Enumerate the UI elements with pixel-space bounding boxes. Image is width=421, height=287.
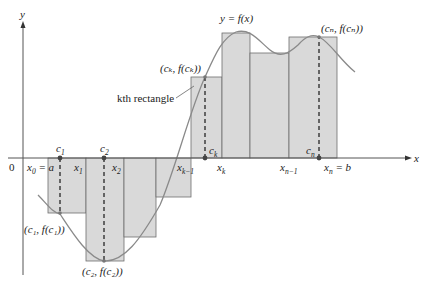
point-label-ck: (cₖ, f(cₖ)) [160,62,201,75]
rectangle-3 [124,158,156,237]
curve-label: y = f(x) [219,12,253,25]
rectangle-n-minus-1 [250,53,289,158]
svg-text:xk: xk [216,161,226,176]
rectangle-4 [156,158,191,197]
point-label-c1: (c₁, f(c₁)) [24,223,65,236]
riemann-sum-diagram: y x 0 y = f(x) kth rectangle x0 = a x1 x… [0,0,421,287]
kth-rectangle-label: kth rectangle [117,92,174,104]
origin-label: 0 [9,161,15,173]
rectangle-k-plus-1 [222,33,250,158]
y-axis-label: y [19,8,25,20]
svg-text:xn = b: xn = b [323,161,352,176]
svg-text:c2: c2 [100,142,109,157]
svg-text:c1: c1 [56,142,65,157]
rectangle-k [191,77,222,158]
point-label-cn: (cₙ, f(cₙ)) [321,22,363,35]
point-label-c2: (c₂, f(c₂)) [82,265,123,278]
rectangle-n [289,37,337,158]
x-axis-label: x [413,152,419,164]
y-axis-arrow-icon [21,21,26,28]
x-axis-arrow-icon [405,156,412,161]
svg-text:xn−1: xn−1 [279,161,297,176]
diagram-canvas: y x 0 y = f(x) kth rectangle x0 = a x1 x… [0,0,421,287]
